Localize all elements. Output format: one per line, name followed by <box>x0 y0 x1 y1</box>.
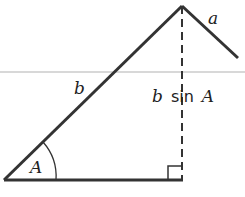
right-angle-marker <box>168 166 182 180</box>
label-angle-a: A <box>28 157 42 177</box>
angle-arc <box>43 142 56 180</box>
label-height-fn: sin <box>171 87 194 106</box>
label-side-b: b <box>74 78 85 98</box>
label-height-angle: A <box>200 86 214 106</box>
label-side-a: a <box>208 8 218 28</box>
triangle-diagram: a b b sin A A <box>0 0 245 197</box>
label-height: b sin A <box>152 86 214 106</box>
label-height-var: b <box>152 86 163 106</box>
